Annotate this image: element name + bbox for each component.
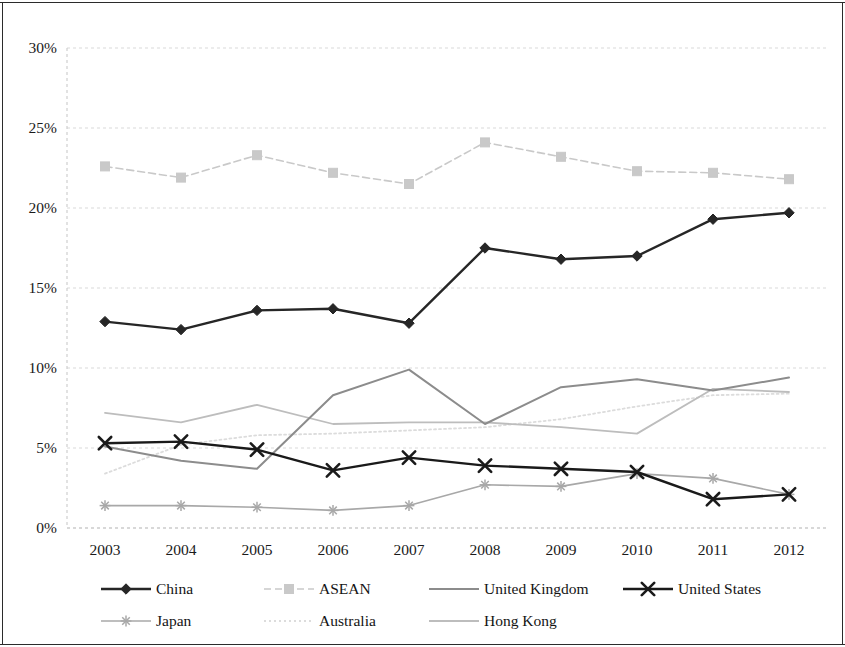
datapoint-asean-2010 — [633, 167, 642, 176]
chart-plot-area: 0%5%10%15%20%25%30% 20032004200520062007… — [0, 0, 845, 570]
legend-label-hong-kong: Hong Kong — [484, 613, 557, 629]
figure-border-bottom — [0, 644, 845, 645]
series-line-japan — [105, 474, 789, 511]
series-line-united-states — [105, 442, 789, 500]
series-line-china — [105, 213, 789, 330]
series-line-asean — [105, 142, 789, 184]
datapoint-china-2004 — [176, 324, 186, 334]
x-tick-2009: 2009 — [531, 542, 591, 558]
x-tick-2007: 2007 — [379, 542, 439, 558]
datapoint-asean-2008 — [481, 138, 490, 147]
datapoint-asean-2005 — [253, 151, 262, 160]
datapoint-japan-2011 — [708, 473, 719, 484]
datapoint-japan-2006 — [328, 505, 339, 516]
y-tick-10%: 10% — [7, 360, 57, 376]
x-tick-2011: 2011 — [683, 542, 743, 558]
datapoint-china-2011 — [708, 214, 718, 224]
y-tick-30%: 30% — [7, 40, 57, 56]
legend-item-japan[interactable]: Japan — [100, 610, 191, 632]
legend-label-china: China — [156, 581, 193, 597]
y-tick-15%: 15% — [7, 280, 57, 296]
datapoint-asean-2009 — [557, 152, 566, 161]
datapoint-japan-2005 — [252, 502, 263, 513]
datapoint-china-2005 — [252, 305, 262, 315]
x-tick-2012: 2012 — [759, 542, 819, 558]
datapoint-china-2006 — [328, 304, 338, 314]
gridlines — [67, 48, 827, 528]
legend-marker-japan — [121, 616, 132, 627]
series-line-hong-kong — [105, 389, 789, 434]
legend-item-united-kingdom[interactable]: United Kingdom — [428, 578, 589, 600]
x-tick-2010: 2010 — [607, 542, 667, 558]
series-line-united-kingdom — [105, 370, 789, 469]
datapoint-asean-2004 — [177, 173, 186, 182]
datapoint-china-2010 — [632, 251, 642, 261]
series-asean — [101, 138, 794, 189]
data-series-group — [99, 138, 795, 516]
x-tick-2005: 2005 — [227, 542, 287, 558]
legend-label-united-kingdom: United Kingdom — [484, 581, 589, 597]
datapoint-japan-2008 — [480, 479, 491, 490]
datapoint-japan-2009 — [556, 481, 567, 492]
legend-swatch-hong-kong-icon — [428, 613, 480, 629]
datapoint-asean-2012 — [785, 175, 794, 184]
legend-item-asean[interactable]: ASEAN — [263, 578, 371, 600]
datapoint-china-2003 — [100, 316, 110, 326]
datapoint-japan-2007 — [404, 500, 415, 511]
legend-swatch-united-states-icon — [622, 581, 674, 597]
datapoint-asean-2007 — [405, 180, 414, 189]
x-tick-2003: 2003 — [75, 542, 135, 558]
legend-item-united-states[interactable]: United States — [622, 578, 761, 600]
legend-swatch-united-kingdom-icon — [428, 581, 480, 597]
series-united-kingdom — [105, 370, 789, 469]
y-tick-25%: 25% — [7, 120, 57, 136]
x-tick-2004: 2004 — [151, 542, 211, 558]
legend-label-asean: ASEAN — [319, 581, 371, 597]
legend-marker-asean — [285, 585, 294, 594]
legend-swatch-japan-icon — [100, 613, 152, 629]
line-chart-svg — [0, 0, 845, 570]
datapoint-japan-2004 — [176, 500, 187, 511]
series-hong-kong — [105, 389, 789, 434]
x-tick-2006: 2006 — [303, 542, 363, 558]
legend-item-china[interactable]: China — [100, 578, 193, 600]
chart-legend: ChinaASEANUnited KingdomUnited StatesJap… — [0, 572, 845, 644]
legend-swatch-china-icon — [100, 581, 152, 597]
datapoint-asean-2003 — [101, 162, 110, 171]
legend-swatch-asean-icon — [263, 581, 315, 597]
datapoint-china-2012 — [784, 208, 794, 218]
legend-label-australia: Australia — [319, 613, 376, 629]
chart-figure: 0%5%10%15%20%25%30% 20032004200520062007… — [0, 0, 845, 647]
legend-swatch-australia-icon — [263, 613, 315, 629]
datapoint-asean-2011 — [709, 168, 718, 177]
y-tick-0%: 0% — [7, 520, 57, 536]
legend-marker-china — [121, 584, 131, 594]
y-tick-20%: 20% — [7, 200, 57, 216]
legend-label-japan: Japan — [156, 613, 191, 629]
datapoint-china-2009 — [556, 254, 566, 264]
legend-item-hong-kong[interactable]: Hong Kong — [428, 610, 557, 632]
datapoint-asean-2006 — [329, 168, 338, 177]
y-tick-5%: 5% — [7, 440, 57, 456]
legend-item-australia[interactable]: Australia — [263, 610, 376, 632]
legend-label-united-states: United States — [678, 581, 761, 597]
x-tick-2008: 2008 — [455, 542, 515, 558]
series-china — [100, 208, 794, 335]
datapoint-japan-2003 — [100, 500, 111, 511]
